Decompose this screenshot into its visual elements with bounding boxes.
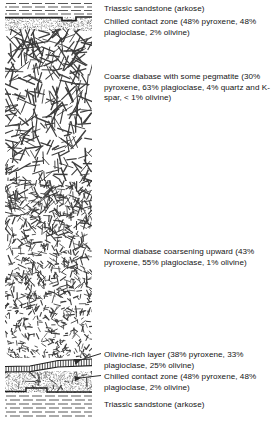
label-group: Triassic sandstone (arkose) Chilled cont… — [0, 0, 279, 423]
label-olivine-rich-layer: Olivine-rich layer (38% pyroxene, 33% pl… — [104, 350, 276, 371]
label-top-sandstone: Triassic sandstone (arkose) — [104, 4, 276, 15]
label-normal-diabase: Normal diabase coarsening upward (43% py… — [104, 247, 276, 268]
label-top-chilled-contact-zone: Chilled contact zone (48% pyroxene, 48% … — [104, 17, 276, 38]
label-bottom-sandstone: Triassic sandstone (arkose) — [104, 400, 276, 411]
label-bottom-chilled-contact-zone: Chilled contact zone (48% pyroxene, 48% … — [104, 372, 276, 393]
label-coarse-diabase: Coarse diabase with some pegmatite (30% … — [104, 72, 276, 104]
